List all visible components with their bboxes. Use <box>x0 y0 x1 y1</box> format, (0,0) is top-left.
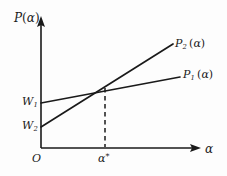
y-tick-label-w2-symbol: W <box>22 119 33 132</box>
y-tick-label-w1: W1 <box>22 96 38 109</box>
y-axis-label-symbol: P <box>14 11 22 25</box>
x-axis <box>41 144 201 152</box>
series-label-p2: P2 (α) <box>175 38 205 51</box>
origin-label: O <box>32 153 41 164</box>
x-tick-label-alpha-star: α* <box>98 153 109 164</box>
y-tick-label-w2: W2 <box>22 120 38 133</box>
series-line-p2 <box>41 44 173 127</box>
plot-canvas <box>0 0 227 176</box>
series-label-p2-arg: α <box>193 37 200 50</box>
y-tick-label-w2-subscript: 2 <box>33 125 37 133</box>
x-axis-label: α <box>205 143 213 155</box>
y-axis <box>37 16 45 148</box>
y-axis-label: P(α) <box>14 12 40 24</box>
series-line-p1 <box>41 77 180 103</box>
plot-figure: P(α) α P2 (α) P1 (α) W1 W2 O α* <box>0 0 227 176</box>
series-label-p1-close-paren: ) <box>209 68 213 81</box>
x-tick-label-star: * <box>105 152 109 161</box>
y-axis-label-close-paren: ) <box>35 11 40 25</box>
y-axis-label-arg: α <box>27 11 35 25</box>
y-tick-label-w1-subscript: 1 <box>33 101 37 109</box>
series-label-p1-arg: α <box>201 68 208 81</box>
y-tick-label-w1-symbol: W <box>22 95 33 108</box>
series-label-p2-close-paren: ) <box>201 37 205 50</box>
series-label-p1: P1 (α) <box>183 69 213 82</box>
